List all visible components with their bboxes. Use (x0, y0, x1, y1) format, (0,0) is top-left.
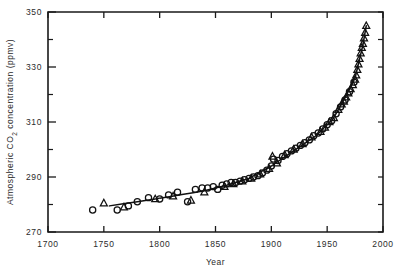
co2-concentration-chart: 1700175018001850190019502000 27029031033… (0, 0, 402, 270)
plot-frame (48, 12, 383, 232)
x-tick-label: 1850 (205, 239, 226, 249)
x-tick-label: 1900 (261, 239, 282, 249)
chart-svg: 1700175018001850190019502000 27029031033… (0, 0, 402, 270)
axis-box (48, 12, 383, 232)
data-point-circle (174, 189, 180, 195)
x-tick-label: 1750 (93, 239, 114, 249)
y-tick-label: 270 (26, 227, 42, 237)
y-tick-label: 310 (26, 117, 42, 127)
x-axis-ticks (48, 12, 383, 232)
x-axis-tick-labels: 1700175018001850190019502000 (37, 239, 393, 249)
y-axis-tick-labels: 270290310330350 (26, 7, 42, 237)
svg-text:Atmospheric CO2 concentration: Atmospheric CO2 concentration (ppmv) (5, 39, 18, 205)
y-axis-minor-ticks (48, 12, 383, 232)
data-point-circle (90, 207, 96, 213)
data-point-circle (114, 207, 120, 213)
x-axis-label: Year (206, 257, 225, 267)
data-point-triangle (201, 188, 208, 195)
data-point-triangle (100, 199, 107, 206)
data-markers-triangle (100, 22, 369, 210)
y-tick-label: 350 (26, 7, 42, 17)
y-tick-label: 290 (26, 172, 42, 182)
x-tick-label: 1800 (149, 239, 170, 249)
x-tick-label: 2000 (372, 239, 393, 249)
y-axis-label: Atmospheric CO2 concentration (ppmv) (5, 39, 18, 205)
x-tick-label: 1950 (317, 239, 338, 249)
x-tick-label: 1700 (37, 239, 58, 249)
y-axis-ticks (48, 12, 56, 232)
y-tick-label: 330 (26, 62, 42, 72)
data-markers-circle (90, 79, 358, 213)
